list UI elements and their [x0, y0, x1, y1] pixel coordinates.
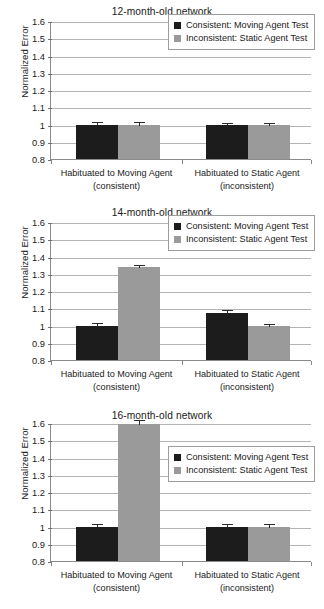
gridline [51, 493, 311, 494]
error-bar-cap [92, 323, 103, 324]
legend-swatch-icon [174, 236, 181, 243]
x-axis-tick [182, 562, 183, 566]
y-axis-tick-mark [48, 327, 52, 328]
gridline [51, 57, 311, 58]
bar-consistent [206, 125, 248, 159]
legend-swatch-icon [174, 22, 181, 29]
y-axis-tick-label: 0.8 [5, 356, 45, 366]
y-axis-tick-label: 1.6 [5, 218, 45, 228]
x-axis-tick [311, 361, 312, 365]
y-axis-tick-mark [48, 309, 52, 310]
chart-title: 16-month-old network [0, 410, 324, 421]
group-label-line1: Habituated to Moving Agent [61, 168, 173, 178]
y-axis-tick-label: 1.6 [5, 419, 45, 429]
legend-label: Consistent: Moving Agent Test [186, 220, 308, 233]
x-axis-group-label: Habituated to Static Agent(inconsistent) [167, 368, 324, 393]
y-axis-tick-label: 1.6 [5, 17, 45, 27]
bar-consistent [206, 527, 248, 561]
y-axis-tick-label: 1.4 [5, 52, 45, 62]
legend-item: Inconsistent: Static Agent Test [174, 464, 308, 477]
bar-inconsistent [248, 527, 290, 561]
y-axis-tick-label: 1.4 [5, 454, 45, 464]
y-axis-tick-label: 0.9 [5, 339, 45, 349]
chart-panel-14-month: 14-month-old network Normalized Error 0.… [0, 201, 324, 404]
y-axis-tick-label: 1.4 [5, 253, 45, 263]
y-axis-tick-mark [48, 344, 52, 345]
y-axis-tick-label: 0.8 [5, 155, 45, 165]
y-axis-tick-label: 1.2 [5, 86, 45, 96]
y-axis-tick-label: 1 [5, 322, 45, 332]
bar-consistent [76, 326, 118, 360]
y-axis-tick-mark [48, 143, 52, 144]
gridline [51, 275, 311, 276]
error-bar-cap [134, 265, 145, 266]
gridline [51, 292, 311, 293]
bar-consistent [76, 125, 118, 160]
y-axis-tick-mark [48, 258, 52, 259]
gridline [51, 441, 311, 442]
legend-label: Inconsistent: Static Agent Test [186, 464, 307, 477]
group-label-line1: Habituated to Moving Agent [61, 570, 173, 580]
y-axis-tick-label: 1.3 [5, 270, 45, 280]
legend-swatch-icon [174, 223, 181, 230]
error-bar-cap [222, 123, 233, 124]
bar-inconsistent [248, 125, 290, 159]
y-axis-tick-mark [48, 91, 52, 92]
y-axis-tick-mark [48, 108, 52, 109]
y-axis-tick-mark [48, 57, 52, 58]
y-axis-tick-label: 1.2 [5, 287, 45, 297]
legend-swatch-icon [174, 467, 181, 474]
x-axis-tick [182, 160, 183, 164]
plot-area: 0.80.911.11.21.31.41.51.6 [50, 424, 311, 562]
y-axis-tick-label: 1.1 [5, 304, 45, 314]
y-axis-tick-label: 0.8 [5, 557, 45, 567]
bar-inconsistent [248, 326, 290, 360]
legend-item: Consistent: Moving Agent Test [174, 451, 308, 464]
y-axis-tick-mark [48, 39, 52, 40]
bar-consistent [76, 527, 118, 562]
error-bar-cap [264, 123, 275, 124]
x-axis-tick [311, 160, 312, 164]
y-axis-tick-label: 1 [5, 121, 45, 131]
group-label-line1: Habituated to Static Agent [194, 168, 299, 178]
chart-legend: Consistent: Moving Agent TestInconsisten… [168, 215, 315, 251]
legend-swatch-icon [174, 35, 181, 42]
x-axis-tick [51, 160, 52, 164]
y-axis-tick-mark [48, 74, 52, 75]
y-axis-tick-mark [48, 459, 52, 460]
legend-label: Consistent: Moving Agent Test [186, 451, 308, 464]
group-label-line1: Habituated to Static Agent [194, 369, 299, 379]
legend-label: Inconsistent: Static Agent Test [186, 32, 307, 45]
y-axis-tick-mark [48, 528, 52, 529]
legend-item: Inconsistent: Static Agent Test [174, 233, 308, 246]
y-axis-tick-mark [48, 126, 52, 127]
y-axis-tick-mark [48, 424, 52, 425]
gridline [51, 424, 311, 425]
group-label-line2: (inconsistent) [167, 180, 324, 193]
bar-consistent [206, 313, 248, 360]
y-axis-tick-label: 1.5 [5, 436, 45, 446]
y-axis-tick-label: 1 [5, 523, 45, 533]
gridline [51, 74, 311, 75]
y-axis-tick-mark [48, 223, 52, 224]
group-label-line2: (inconsistent) [167, 582, 324, 595]
y-axis-tick-mark [48, 292, 52, 293]
gridline [51, 258, 311, 259]
chart-legend: Consistent: Moving Agent TestInconsisten… [168, 446, 315, 482]
error-bar-cap [92, 122, 103, 123]
error-bar-cap [264, 524, 275, 525]
error-bar-cap [222, 310, 233, 311]
legend-item: Inconsistent: Static Agent Test [174, 32, 308, 45]
y-axis-tick-label: 1.3 [5, 69, 45, 79]
bar-inconsistent [118, 424, 160, 561]
gridline [51, 91, 311, 92]
y-axis-tick-mark [48, 22, 52, 23]
bar-inconsistent [118, 267, 160, 360]
y-axis-tick-mark [48, 493, 52, 494]
error-bar-cap [134, 122, 145, 123]
chart-legend: Consistent: Moving Agent TestInconsisten… [168, 14, 315, 50]
legend-label: Inconsistent: Static Agent Test [186, 233, 307, 246]
y-axis-tick-label: 1.5 [5, 34, 45, 44]
chart-panel-12-month: 12-month-old network Normalized Error 0.… [0, 0, 324, 203]
error-bar-cap [134, 420, 145, 421]
